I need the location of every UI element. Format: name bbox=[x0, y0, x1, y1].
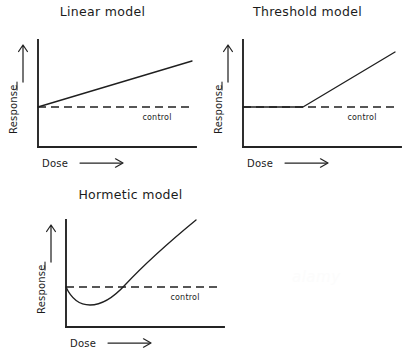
y-axis-label: Response bbox=[8, 84, 19, 134]
y-axis-arrow-icon bbox=[47, 225, 56, 262]
linear-response-curve bbox=[38, 61, 192, 107]
panel-title-hormetic: Hormetic model bbox=[28, 187, 233, 202]
control-label: control bbox=[142, 113, 171, 122]
x-axis-label: Dose bbox=[42, 158, 68, 169]
x-axis-label: Dose bbox=[247, 158, 273, 169]
x-axis-arrow-icon bbox=[80, 159, 123, 167]
x-axis-arrow-icon bbox=[285, 159, 328, 167]
panel-title-threshold: Threshold model bbox=[205, 4, 410, 19]
linear-model-plot: Response Dose control bbox=[0, 4, 205, 179]
panel-title-linear: Linear model bbox=[0, 4, 205, 19]
y-axis-arrow-icon bbox=[224, 45, 233, 82]
y-axis-arrow-icon bbox=[19, 45, 28, 82]
panel-threshold-model: Threshold model Response Dose control bbox=[205, 4, 410, 179]
figure-root: Linear model Response Dose bbox=[0, 0, 410, 362]
threshold-model-plot: Response Dose control bbox=[205, 4, 410, 179]
x-axis-arrow-icon bbox=[108, 339, 151, 347]
threshold-response-curve bbox=[243, 52, 395, 107]
watermark-text: alamy bbox=[292, 268, 341, 286]
x-axis-label: Dose bbox=[70, 338, 96, 349]
control-label: control bbox=[347, 113, 376, 122]
panel-hormetic-model: Hormetic model Response Dose control bbox=[28, 187, 233, 359]
panel-linear-model: Linear model Response Dose bbox=[0, 4, 205, 179]
y-axis-label: Response bbox=[213, 84, 224, 134]
y-axis-label: Response bbox=[36, 264, 47, 314]
control-label: control bbox=[170, 293, 199, 302]
hormetic-model-plot: Response Dose control bbox=[28, 187, 233, 359]
